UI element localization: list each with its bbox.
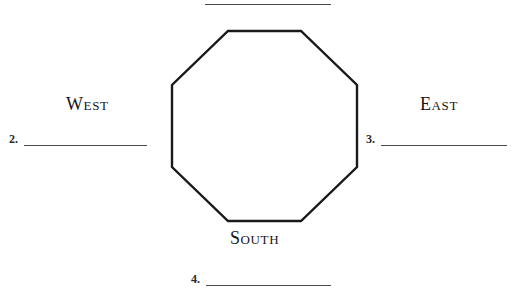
octagon-diagram xyxy=(170,29,359,223)
answer-row-2: 2. xyxy=(9,128,147,146)
direction-label-west: West xyxy=(66,94,109,115)
answer-number-2: 2. xyxy=(9,133,18,146)
answer-blank-line-3[interactable] xyxy=(381,131,507,146)
answer-number-4: 4. xyxy=(191,273,200,286)
direction-label-south: South xyxy=(230,228,279,249)
answer-row-3: 3. xyxy=(366,128,507,146)
octagon-outline xyxy=(172,31,357,221)
answer-blank-line-4[interactable] xyxy=(206,271,331,286)
answer-blank-line-1-cropped[interactable] xyxy=(205,0,331,5)
answer-row-4: 4. xyxy=(191,268,331,286)
answer-number-3: 3. xyxy=(366,133,375,146)
octagon-shape xyxy=(170,29,359,223)
worksheet-page: West East South 2. 3. 4. xyxy=(0,0,520,297)
direction-label-east: East xyxy=(420,94,458,115)
answer-blank-line-2[interactable] xyxy=(24,131,147,146)
